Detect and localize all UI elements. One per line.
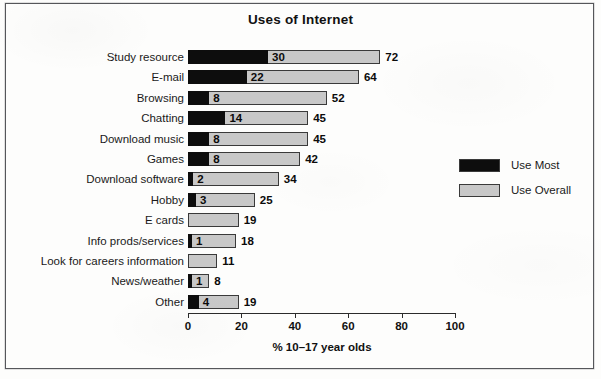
category-label: Download software (86, 171, 184, 187)
value-label-use-most: 4 (203, 295, 209, 309)
bar-use-most (188, 111, 225, 125)
category-label-row: Look for careers information (0, 252, 184, 272)
x-axis-tick (295, 313, 296, 318)
bar-use-overall (188, 132, 308, 146)
category-label-row: Study resource (0, 48, 184, 68)
category-label: News/weather (111, 273, 184, 289)
bar-row: 845 (188, 130, 455, 150)
bar-row: 3072 (188, 48, 455, 68)
value-label-use-overall: 11 (222, 254, 234, 268)
x-axis-line (188, 313, 456, 314)
bar-use-most (188, 234, 192, 248)
category-label-row: News/weather (0, 272, 184, 292)
value-label-use-most: 1 (196, 274, 202, 288)
category-label-row: Download music (0, 130, 184, 150)
bar-row: 11 (188, 252, 455, 272)
bar-use-most (188, 152, 209, 166)
value-label-use-overall: 72 (385, 50, 398, 64)
bar-use-most (188, 193, 196, 207)
bar-use-overall (188, 111, 308, 125)
category-label: Other (155, 294, 184, 310)
category-label: Chatting (141, 110, 184, 126)
bar-use-overall (188, 91, 327, 105)
x-axis-tick (241, 313, 242, 318)
x-axis-tick-label: 40 (288, 320, 301, 332)
bar-use-most (188, 295, 199, 309)
value-label-use-overall: 45 (313, 132, 326, 146)
value-label-use-most: 8 (213, 132, 219, 146)
bar-use-most (188, 132, 209, 146)
value-label-use-most: 1 (196, 234, 202, 248)
bar-row: 118 (188, 232, 455, 252)
category-label-row: Games (0, 150, 184, 170)
bar-row: 419 (188, 293, 455, 313)
value-label-use-overall: 19 (244, 295, 257, 309)
value-label-use-overall: 34 (284, 172, 297, 186)
legend-label: Use Overall (511, 182, 571, 199)
value-label-use-overall: 42 (305, 152, 318, 166)
category-label: E cards (145, 212, 184, 228)
category-label: Info prods/services (87, 233, 184, 249)
category-label-row: Browsing (0, 89, 184, 109)
x-axis-tick-label: 80 (395, 320, 408, 332)
legend-item: Use Overall (459, 181, 589, 202)
category-label: Download music (100, 131, 184, 147)
category-label-row: Chatting (0, 109, 184, 129)
category-label: Games (147, 151, 184, 167)
bar-row: 19 (188, 211, 455, 231)
x-axis-tick (455, 313, 456, 318)
x-axis-tick (402, 313, 403, 318)
value-label-use-overall: 19 (244, 213, 257, 227)
value-label-use-most: 8 (213, 152, 219, 166)
category-label-row: Other (0, 293, 184, 313)
value-label-use-overall: 8 (214, 274, 220, 288)
category-label-row: Info prods/services (0, 232, 184, 252)
x-axis-tick-label: 60 (342, 320, 355, 332)
bar-use-most (188, 172, 193, 186)
x-axis-tick (188, 313, 189, 318)
bar-use-overall (188, 193, 255, 207)
category-labels: Study resourceE-mailBrowsingChattingDown… (0, 48, 184, 313)
category-label-row: E-mail (0, 68, 184, 88)
bar-use-most (188, 50, 268, 64)
bar-row: 2264 (188, 68, 455, 88)
bar-use-overall (188, 295, 239, 309)
category-label-row: Hobby (0, 191, 184, 211)
legend-swatch (459, 184, 500, 197)
x-axis-tick-label: 0 (185, 320, 191, 332)
x-axis-title: % 10–17 year olds (188, 341, 456, 353)
value-label-use-overall: 52 (332, 91, 345, 105)
value-label-use-most: 22 (251, 70, 264, 84)
value-label-use-overall: 25 (260, 193, 273, 207)
value-label-use-most: 30 (272, 50, 285, 64)
category-label-row: Download software (0, 170, 184, 190)
bar-row: 325 (188, 191, 455, 211)
category-label: Look for careers information (41, 253, 184, 269)
bar-use-overall (188, 70, 359, 84)
legend-swatch (459, 159, 500, 172)
plot-area: 307222648521445845842234325191181118419 (188, 48, 455, 313)
category-label-row: E cards (0, 211, 184, 231)
bar-row: 842 (188, 150, 455, 170)
bar-row: 1445 (188, 109, 455, 129)
bar-use-most (188, 91, 209, 105)
value-label-use-most: 8 (213, 91, 219, 105)
bar-row: 234 (188, 170, 455, 190)
bar-row: 852 (188, 89, 455, 109)
chart-figure: Uses of Internet Study resourceE-mailBro… (0, 0, 601, 379)
value-label-use-overall: 45 (313, 111, 326, 125)
value-label-use-most: 14 (229, 111, 242, 125)
legend-item: Use Most (459, 156, 589, 177)
bar-use-most (188, 274, 192, 288)
bar-use-most (188, 70, 247, 84)
bar-use-overall (188, 152, 300, 166)
category-label: E-mail (151, 69, 184, 85)
value-label-use-overall: 64 (364, 70, 377, 84)
category-label: Hobby (151, 192, 184, 208)
bar-row: 18 (188, 272, 455, 292)
value-label-use-most: 3 (200, 193, 206, 207)
value-label-use-overall: 18 (241, 234, 254, 248)
category-label: Study resource (107, 49, 184, 65)
legend-label: Use Most (511, 157, 560, 174)
x-axis-tick-label: 20 (235, 320, 248, 332)
